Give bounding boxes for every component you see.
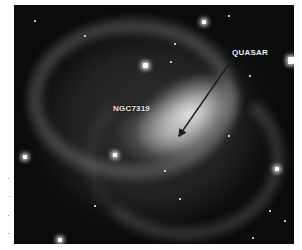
margin-mark <box>9 196 10 197</box>
margin-mark <box>8 215 9 216</box>
quasar-pointer-arrow <box>14 5 294 244</box>
galaxy-photograph: QUASAR NGC7319 <box>14 5 294 244</box>
margin-mark <box>8 233 9 234</box>
margin-mark <box>8 178 9 179</box>
